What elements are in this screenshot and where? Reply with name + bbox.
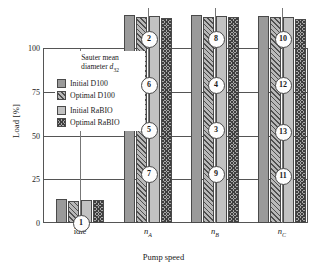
operating-point-marker-6[interactable]: 6 xyxy=(141,77,158,94)
operating-point-marker-9[interactable]: 9 xyxy=(208,166,225,183)
operating-point-marker-1[interactable]: 1 xyxy=(73,215,90,232)
y-tick-75: 75 xyxy=(4,89,40,97)
x-tick-na: nA xyxy=(125,226,171,240)
bar-2-optimal-rabio xyxy=(161,18,172,223)
legend-title-line1: Sauter mean xyxy=(81,53,119,62)
y-tick-0: 0 xyxy=(4,220,40,228)
legend-item-initial-d100: Initial D100 xyxy=(57,78,143,89)
legend-label-initial-d100: Initial D100 xyxy=(70,79,108,88)
legend-title-line2-pre: diameter xyxy=(81,62,109,71)
operating-point-marker-13[interactable]: 13 xyxy=(275,124,292,141)
x-axis-label: Pump speed xyxy=(0,252,327,262)
legend-label-optimal-d100: Optimal D100 xyxy=(70,91,115,100)
legend-title-subscript: 32 xyxy=(113,67,119,73)
operating-point-marker-11[interactable]: 11 xyxy=(275,168,292,185)
y-tick-50: 50 xyxy=(4,133,40,141)
y-tick-25: 25 xyxy=(4,176,40,184)
operating-point-marker-4[interactable]: 4 xyxy=(208,77,225,94)
y-axis-label: Load [%] xyxy=(11,86,21,156)
x-tick-nb-sub: B xyxy=(215,232,219,238)
bar-10-optimal-rabio xyxy=(295,19,306,223)
legend-item-optimal-rabio: Optimal RaBIO xyxy=(57,117,143,128)
x-tick-na-sub: A xyxy=(148,232,152,238)
bar-10-initial-d100 xyxy=(258,16,269,223)
operating-point-marker-10[interactable]: 10 xyxy=(275,31,292,48)
x-tick-nc: nC xyxy=(259,226,305,240)
y-tick-100: 100 xyxy=(4,45,40,53)
bar-8-optimal-rabio xyxy=(228,17,239,223)
operating-point-marker-3[interactable]: 3 xyxy=(208,122,225,139)
chart-figure: 100 75 50 25 0 Load [%] idle nA nB nC Pu… xyxy=(0,0,327,274)
legend-swatch-optimal-d100-icon xyxy=(57,91,66,100)
operating-point-marker-7[interactable]: 7 xyxy=(141,166,158,183)
legend-swatch-optimal-rabio-icon xyxy=(57,118,66,127)
bar-10-optimal-d100 xyxy=(270,17,281,223)
x-tick-nc-sub: C xyxy=(282,232,286,238)
x-tick-nb: nB xyxy=(192,226,238,240)
operating-point-marker-2[interactable]: 2 xyxy=(141,31,158,48)
legend-item-initial-rabio: Initial RaBIO xyxy=(57,105,143,116)
legend-item-optimal-d100: Optimal D100 xyxy=(57,90,143,101)
legend-swatch-initial-d100-icon xyxy=(57,79,66,88)
legend-title: Sauter mean diameter d32 xyxy=(57,53,143,75)
operating-point-marker-5[interactable]: 5 xyxy=(141,122,158,139)
legend-swatch-initial-rabio-icon xyxy=(57,106,66,115)
operating-point-marker-12[interactable]: 12 xyxy=(275,77,292,94)
legend-label-initial-rabio: Initial RaBIO xyxy=(70,106,113,115)
operating-point-marker-8[interactable]: 8 xyxy=(208,31,225,48)
bar-1-initial-d100 xyxy=(56,199,67,223)
legend-label-optimal-rabio: Optimal RaBIO xyxy=(70,118,120,127)
bar-1-optimal-rabio xyxy=(93,200,104,223)
chart-legend: Sauter mean diameter d32 Initial D100 Op… xyxy=(55,51,145,131)
bar-8-initial-d100 xyxy=(191,15,202,223)
